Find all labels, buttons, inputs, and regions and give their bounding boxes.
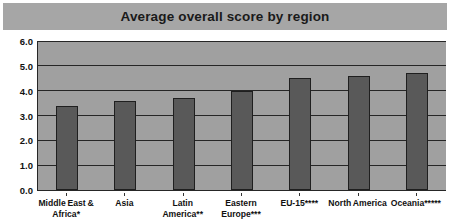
- x-axis-tick-label-line: EU-15****: [267, 198, 331, 209]
- x-axis-tick-label: LatinAmerica**: [151, 198, 215, 219]
- y-axis-tick-label: 0.0: [4, 185, 33, 196]
- bar: [406, 73, 428, 190]
- bar: [231, 91, 253, 190]
- y-axis-tick-label: 5.0: [4, 60, 33, 71]
- bar: [173, 98, 195, 190]
- x-axis-tick-label: North America: [325, 198, 389, 209]
- x-axis-tick-label-line: America**: [151, 209, 215, 220]
- x-axis-tick-label-line: Oceania*****: [384, 198, 448, 209]
- x-axis-tick-mark: [66, 193, 67, 196]
- x-axis-tick-mark: [241, 193, 242, 196]
- x-axis-tick-label: Oceania*****: [384, 198, 448, 209]
- y-axis-tick-label: 2.0: [4, 135, 33, 146]
- bar: [348, 76, 370, 190]
- y-axis-tick-label: 4.0: [4, 85, 33, 96]
- y-axis-tick-label: 1.0: [4, 160, 33, 171]
- chart-title-banner: Average overall score by region: [3, 3, 447, 30]
- bar: [114, 101, 136, 190]
- x-axis-tick-label-line: Eastern: [209, 198, 273, 209]
- x-axis-tick-label-line: Latin: [151, 198, 215, 209]
- x-axis-tick-label: Middle East &Africa*: [34, 198, 98, 219]
- x-axis-tick-mark: [183, 193, 184, 196]
- x-axis-tick-mark: [124, 193, 125, 196]
- x-axis-tick-mark: [299, 193, 300, 196]
- bar: [56, 106, 78, 190]
- x-axis-tick-label-line: Europe***: [209, 209, 273, 220]
- x-axis-tick-label-line: North America: [325, 198, 389, 209]
- x-axis-tick-label-line: Asia: [92, 198, 156, 209]
- bar: [289, 78, 311, 190]
- page-title: Average overall score by region: [121, 9, 330, 24]
- x-axis-tick-label: EasternEurope***: [209, 198, 273, 219]
- bar-chart-figure: Average overall score by region 0.01.02.…: [0, 0, 450, 224]
- x-axis-tick-label-line: Africa*: [34, 209, 98, 220]
- x-axis-tick-label: Asia: [92, 198, 156, 209]
- y-axis-tick-label: 6.0: [4, 36, 33, 47]
- x-axis-tick-label-line: Middle East &: [34, 198, 98, 209]
- gridline: [38, 41, 446, 42]
- plot-area: [37, 41, 446, 191]
- gridline: [38, 65, 446, 66]
- x-axis-tick-mark: [358, 193, 359, 196]
- x-axis-tick-label: EU-15****: [267, 198, 331, 209]
- x-axis: Middle East &Africa*AsiaLatinAmerica**Ea…: [37, 193, 446, 224]
- y-axis-tick-label: 3.0: [4, 110, 33, 121]
- x-axis-tick-mark: [416, 193, 417, 196]
